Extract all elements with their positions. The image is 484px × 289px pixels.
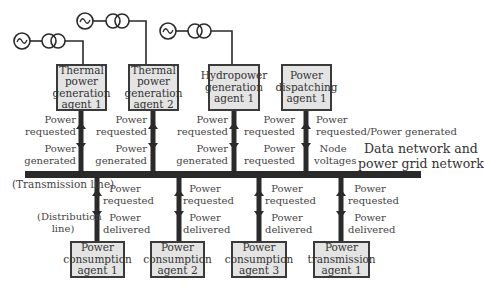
network-label: Data network andpower grid network [358, 141, 484, 171]
label-power-delivered: Powerdelivered [183, 212, 227, 236]
label-dispatch-up: Powerrequested/Power generated [316, 114, 457, 138]
box-line: generation [53, 87, 111, 99]
label-power-delivered: Powerdelivered [348, 212, 392, 236]
bus-bar [25, 171, 421, 178]
arrow-down-icon [229, 143, 239, 150]
label-power-requested: Powerrequested [24, 114, 76, 138]
arrow-down-icon [254, 211, 264, 218]
box-line: power [137, 75, 170, 87]
arrow-down-icon [148, 143, 158, 150]
arrow-down-icon [336, 211, 346, 218]
box-line: generation [205, 81, 263, 93]
power-consumption-agent-1[interactable]: Powerconsumptionagent 1 [70, 241, 125, 278]
label-power-requested: Powerrequested [243, 114, 295, 138]
box-line: Thermal [59, 64, 104, 76]
top-connector-4 [301, 111, 311, 172]
arrow-down-icon [76, 143, 86, 150]
arrow-down-icon [301, 143, 311, 150]
transformer-icon [42, 34, 65, 48]
label-power-requested: Powerrequested [243, 143, 295, 167]
arrow-up-icon [92, 189, 102, 196]
label-power-requested: Powerrequested [95, 114, 147, 138]
box-line: Power [242, 241, 275, 253]
box-line: agent 1 [321, 264, 361, 276]
transformer-icon [106, 14, 129, 28]
arrow-up-icon [301, 122, 311, 129]
label-power-requested: Powerrequested [183, 183, 227, 207]
label-line: Data network and [364, 141, 478, 156]
connector-line [304, 111, 309, 172]
box-line: consumption [143, 253, 211, 265]
label-line: line) [52, 223, 75, 234]
label-line: Power [316, 114, 348, 125]
top-connector-2 [148, 111, 158, 172]
box-line: Power [325, 241, 358, 253]
box-line: Power [290, 69, 323, 81]
box-line: Hydropower [201, 69, 267, 81]
arrow-up-icon [254, 189, 264, 196]
label-power-generated: Powergenerated [176, 143, 228, 167]
thermal-power-generation-agent-1[interactable]: Thermalpowergenerationagent 1 [56, 64, 107, 111]
bottom-connector-3 [254, 178, 264, 242]
box-line: agent 1 [286, 92, 326, 104]
label-power-delivered: Powerdelivered [265, 212, 309, 236]
thermal-power-generation-agent-2[interactable]: Thermalpowergenerationagent 2 [128, 64, 179, 111]
connector-line [257, 178, 262, 242]
arrow-up-icon [336, 189, 346, 196]
label-power-requested: Powerrequested [348, 183, 392, 207]
box-line: Thermal [131, 64, 176, 76]
power-consumption-agent-2[interactable]: Powerconsumptionagent 2 [150, 241, 205, 278]
box-line: generation [125, 87, 183, 99]
top-connector-1 [76, 111, 86, 172]
box-line: Power [161, 241, 194, 253]
label-power-requested: Powerrequested [265, 183, 309, 207]
box-line: agent 1 [214, 92, 254, 104]
box-line: power [65, 75, 98, 87]
top-connector-3 [229, 111, 239, 172]
box-line: consumption [225, 253, 293, 265]
label-power-delivered: Powerdelivered [103, 212, 147, 236]
arrow-up-icon [148, 122, 158, 129]
connector-line [151, 111, 156, 172]
transmission-line-label: (Transmission line) [12, 178, 114, 190]
label-power-requested: Powerrequested [176, 114, 228, 138]
box-line: agent 2 [157, 264, 197, 276]
distribution-line-label: (Distributionline) [37, 211, 89, 235]
label-node-voltages: Nodevoltages [314, 143, 352, 167]
hydropower-generation-agent-1[interactable]: Hydropowergenerationagent 1 [208, 64, 260, 111]
power-consumption-agent-3[interactable]: Powerconsumptionagent 3 [231, 241, 287, 278]
label-line: requested/Power generated [316, 126, 457, 137]
label-power-requested: Powerrequested [103, 183, 147, 207]
label-power-generated: Powergenerated [95, 143, 147, 167]
connector-line [339, 178, 344, 242]
box-line: agent 2 [133, 98, 173, 110]
generator-1 [14, 33, 83, 64]
label-line: (Distribution [37, 211, 102, 222]
label-line: power grid network [358, 156, 484, 171]
box-line: dispatching [275, 81, 337, 93]
generator-3 [160, 23, 232, 64]
transformer-icon [188, 24, 211, 38]
connector-line [79, 111, 84, 172]
generator-2 [77, 13, 146, 64]
label-line: Node [319, 143, 346, 154]
box-line: transmission [307, 253, 375, 265]
power-dispatching-agent-1[interactable]: Powerdispatchingagent 1 [281, 64, 332, 111]
box-line: agent 1 [77, 264, 117, 276]
label-power-generated: Powergenerated [24, 143, 76, 167]
box-line: Power [81, 241, 114, 253]
box-line: consumption [63, 253, 131, 265]
bottom-connector-4 [336, 178, 346, 242]
connector-line [177, 178, 182, 242]
box-line: agent 1 [61, 98, 101, 110]
connector-line [232, 111, 237, 172]
arrow-up-icon [229, 122, 239, 129]
box-line: agent 3 [239, 264, 279, 276]
arrow-up-icon [76, 122, 86, 129]
label-line: voltages [314, 155, 356, 166]
power-transmission-agent-1[interactable]: Powertransmissionagent 1 [313, 241, 370, 278]
